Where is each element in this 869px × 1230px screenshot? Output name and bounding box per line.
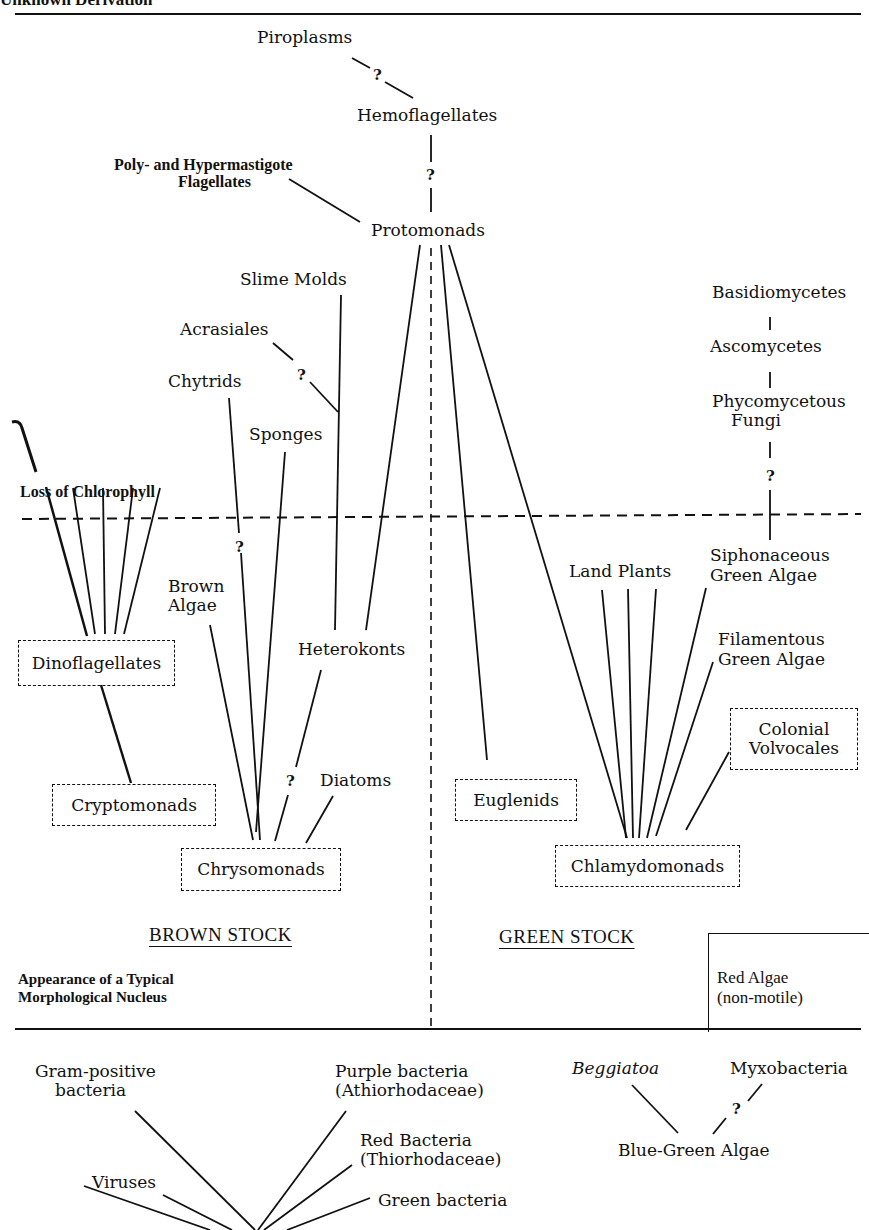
node-piroplasms: Piroplasms [257,28,352,47]
node-chytrids: Chytrids [168,372,242,391]
node-filamentous-2: Green Algae [718,650,825,669]
node-green-bacteria: Green bacteria [378,1191,507,1210]
node-slime-molds: Slime Molds [240,270,347,289]
chlamydomonads-label: Chlamydomonads [571,857,724,876]
node-myxobacteria: Myxobacteria [730,1059,848,1078]
chrysomonads-label: Chrysomonads [197,860,325,879]
brown-stock-label: BROWN STOCK [149,924,292,946]
node-siphonaceous: Siphonaceous [710,546,830,565]
node-viruses: Viruses [92,1173,156,1192]
node-acrasiales: Acrasiales [180,320,269,339]
node-brown-algae-2: Algae [168,596,217,615]
node-colonial-volvocales: Colonial Volvocales [730,708,858,770]
node-brown-algae: Brown [168,577,224,596]
loss-of-chlorophyll-label: Loss of Chlorophyll [20,482,155,501]
uncertain-mark: ? [426,166,435,184]
uncertain-mark: ? [373,66,382,84]
node-gram-positive: Gram-positive [35,1062,156,1081]
node-purple-bacteria-2: (Athiorhodaceae) [335,1081,484,1100]
node-red-algae-2: (non-motile) [717,988,803,1007]
colonial-volvocales-label-2: Volvocales [749,739,839,758]
node-hemoflagellates: Hemoflagellates [357,106,497,125]
node-chrysomonads: Chrysomonads [181,848,341,891]
node-cryptomonads: Cryptomonads [52,784,216,826]
node-ascomycetes: Ascomycetes [710,337,822,356]
node-filamentous: Filamentous [718,630,825,649]
node-land-plants: Land Plants [569,562,671,581]
uncertain-mark: ? [297,366,306,384]
node-blue-green-algae: Blue-Green Algae [618,1141,770,1160]
uncertain-mark: ? [235,538,244,556]
uncertain-mark: ? [732,1100,741,1118]
node-chlamydomonads: Chlamydomonads [555,845,740,887]
node-phycomycetous-2: Fungi [731,411,781,430]
node-poly-hypermastigote-2: Flagellates [178,172,251,191]
node-red-algae: Red Algae [717,968,788,987]
node-siphonaceous-2: Green Algae [710,566,817,585]
green-stock-label: GREEN STOCK [499,926,635,948]
nucleus-label: Appearance of a Typical [18,970,174,989]
uncertain-mark: ? [286,772,295,790]
nucleus-label-2: Morphological Nucleus [18,988,167,1007]
node-red-bacteria: Red Bacteria [360,1131,472,1150]
node-heterokonts: Heterokonts [298,640,405,659]
node-purple-bacteria: Purple bacteria [335,1062,468,1081]
node-diatoms: Diatoms [320,771,391,790]
node-euglenids: Euglenids [455,779,577,821]
node-phycomycetous: Phycomycetous [712,392,846,411]
node-protomonads: Protomonads [371,221,485,240]
node-red-bacteria-2: (Thiorhodaceae) [360,1150,501,1169]
node-dinoflagellates: Dinoflagellates [18,640,175,686]
node-basidiomycetes: Basidiomycetes [712,283,846,302]
node-gram-positive-2: bacteria [55,1081,126,1100]
node-sponges: Sponges [249,425,322,444]
colonial-volvocales-label: Colonial [759,720,830,739]
cryptomonads-label: Cryptomonads [71,796,197,815]
dinoflagellates-label: Dinoflagellates [32,654,161,673]
euglenids-label: Euglenids [473,791,559,810]
node-beggiatoa: Beggiatoa [572,1059,659,1078]
uncertain-mark: ? [766,467,775,485]
